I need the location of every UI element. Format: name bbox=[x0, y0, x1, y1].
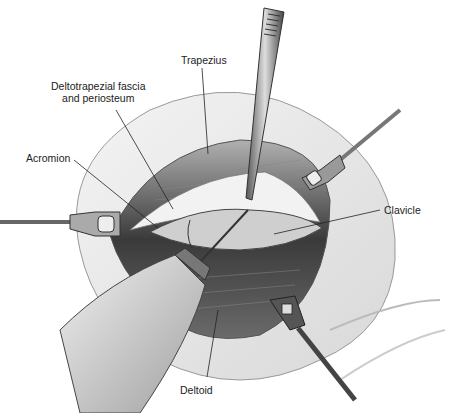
label-deltotrapezial-fascia: Deltotrapezial fascia and periosteum bbox=[51, 80, 146, 104]
label-clavicle: Clavicle bbox=[384, 204, 421, 216]
label-deltoid: Deltoid bbox=[180, 384, 213, 396]
label-trapezius: Trapezius bbox=[181, 54, 227, 66]
label-deltotrapezial-line1: Deltotrapezial fascia bbox=[51, 80, 146, 92]
surgical-illustration: Trapezius Deltotrapezial fascia and peri… bbox=[0, 0, 449, 413]
retractor-left bbox=[0, 212, 120, 236]
label-acromion: Acromion bbox=[26, 152, 70, 164]
label-deltotrapezial-line2: and periosteum bbox=[51, 92, 146, 104]
